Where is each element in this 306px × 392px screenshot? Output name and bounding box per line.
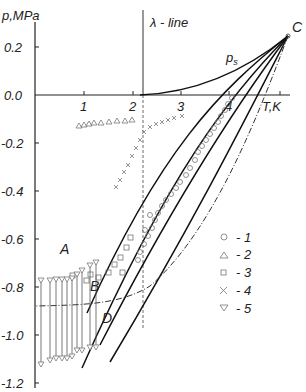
y-tick-label: 0.0 (4, 88, 23, 103)
y-tick-label: 0.2 (4, 40, 23, 55)
legend-circle-icon (221, 234, 227, 240)
series-1-markers (136, 96, 235, 263)
legend-label-1: - 1 (236, 230, 251, 245)
legend-label-3: - 3 (236, 265, 252, 280)
x-axis-label: T,K (262, 99, 282, 114)
curve-A-label: A (59, 241, 69, 257)
legend-label-5: - 5 (236, 301, 252, 316)
critical-point-label: C (292, 19, 303, 35)
y-tick-label: -0.2 (1, 136, 24, 151)
x-tick-label: 3 (177, 99, 185, 114)
curve-middle (100, 36, 288, 345)
y-tick-label: -0.4 (1, 184, 23, 199)
y-tick-label: -1.0 (1, 328, 24, 343)
legend-label-4: - 4 (236, 283, 251, 298)
legend: - 1 - 2 - 3 - 4 - 5 (220, 230, 252, 316)
series-3-markers (70, 235, 133, 283)
y-axis-label: p,MPa (1, 8, 40, 23)
chart: p,MPa 0.2 0.0 -0.2 -0.4 -0.6 -0.8 -1.0 -… (0, 0, 306, 392)
y-tick-label: -1.2 (1, 376, 24, 391)
legend-square-icon (221, 270, 226, 275)
series-4-markers (114, 114, 184, 189)
curve-D-label: D (102, 310, 112, 326)
legend-label-2: - 2 (236, 247, 252, 262)
y-tick-label: -0.8 (1, 280, 24, 295)
legend-triangle-up-icon (220, 252, 228, 258)
curve-B (82, 36, 288, 368)
legend-triangle-down-icon (220, 305, 228, 311)
legend-x-icon (220, 287, 227, 294)
ps-label: ps (225, 50, 238, 67)
x-tick-label: 2 (128, 99, 137, 114)
x-tick-label: 1 (80, 99, 87, 114)
series-2-markers (76, 117, 135, 128)
y-tick-label: -0.6 (1, 232, 24, 247)
lambda-line-label: λ - line (149, 15, 188, 30)
